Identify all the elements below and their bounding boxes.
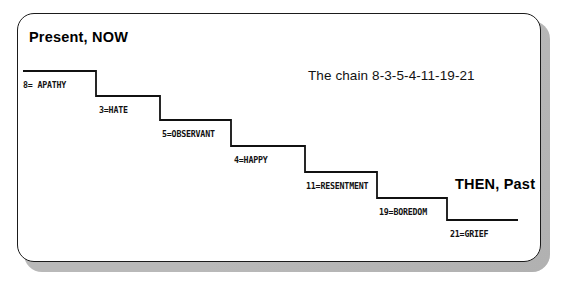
step-label-6: 19=BOREDOM xyxy=(379,207,427,217)
diagram-canvas: Present, NOW THEN, Past The chain 8-3-5-… xyxy=(0,0,561,286)
step-label-2: 3=HATE xyxy=(99,105,128,115)
step-label-4: 4=HAPPY xyxy=(234,155,268,165)
step-label-3: 5=OBSERVANT xyxy=(162,129,215,139)
step-label-7: 21=GRIEF xyxy=(450,229,488,239)
staircase-step-line xyxy=(0,0,561,286)
step-label-5: 11=RESENTMENT xyxy=(306,181,368,191)
step-label-1: 8= APATHY xyxy=(23,80,66,90)
staircase-polyline xyxy=(23,71,518,220)
